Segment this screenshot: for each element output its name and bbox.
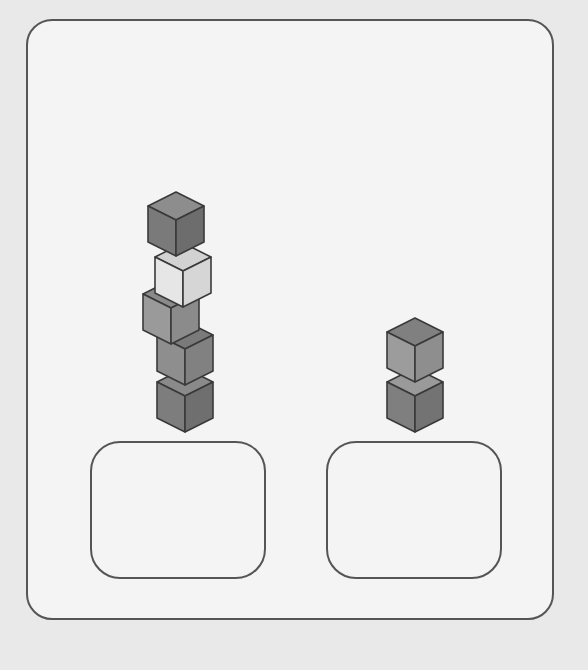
cube bbox=[148, 192, 204, 256]
left-cube-stack bbox=[143, 192, 213, 432]
right-cube-stack bbox=[387, 318, 443, 432]
cube-stacks bbox=[0, 0, 588, 670]
cube bbox=[387, 318, 443, 382]
left-answer-box[interactable] bbox=[90, 441, 266, 579]
right-answer-box[interactable] bbox=[326, 441, 502, 579]
